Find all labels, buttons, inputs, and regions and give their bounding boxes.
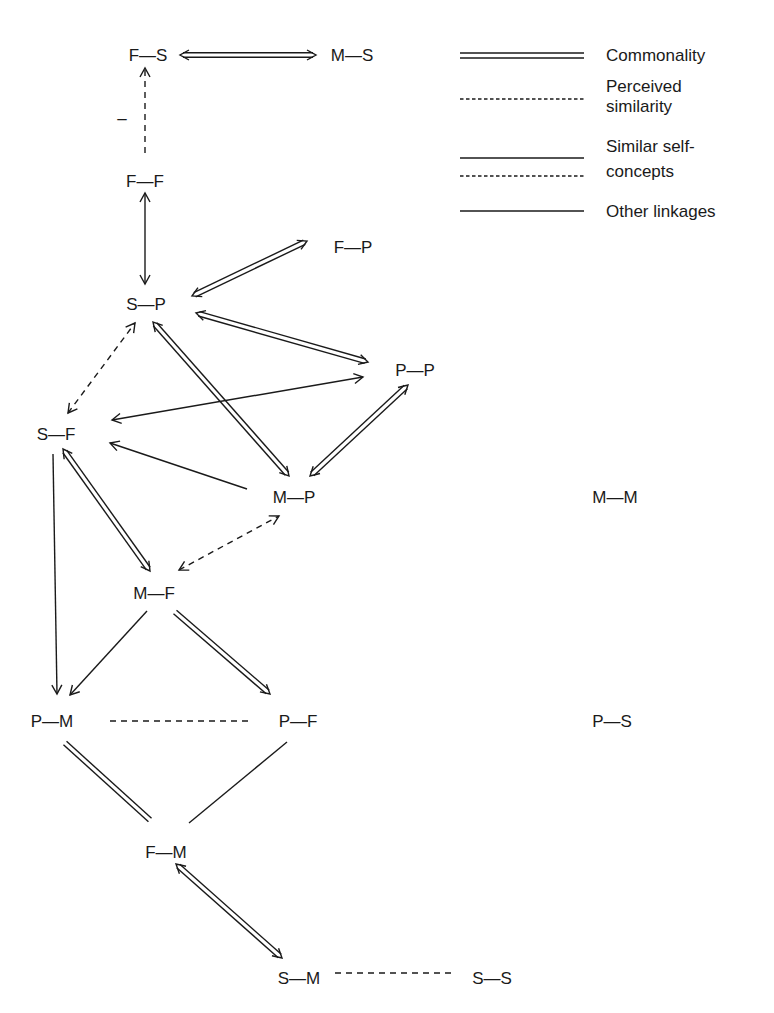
node-SF: S—F <box>37 425 76 444</box>
edge-MF-MP <box>179 516 279 570</box>
legend-item-commonality: Commonality <box>460 46 706 65</box>
edge-SF-PP <box>112 374 363 424</box>
node-SM: S—M <box>278 969 321 988</box>
legend-item-similar-self-concepts: Similar self- concepts <box>460 137 695 181</box>
edge-FS-MS <box>180 50 316 60</box>
legend-item-other-linkages: Other linkages <box>460 202 716 221</box>
node-MM: M—M <box>592 488 637 507</box>
edge-FF-SP <box>140 193 150 284</box>
node-MF: M—F <box>133 584 175 603</box>
legend-label-commonality: Commonality <box>606 46 706 65</box>
legend: Commonality Perceived similarity Similar… <box>460 46 716 221</box>
edge-MP-SF <box>110 441 247 489</box>
arrowhead-icon <box>179 561 189 570</box>
arrowhead-icon <box>307 50 316 60</box>
node-SS: S—S <box>472 969 512 988</box>
edge-SP-MP <box>153 322 289 476</box>
edge-MF-PM <box>70 611 147 695</box>
legend-label-other-linkages: Other linkages <box>606 202 716 221</box>
node-MS: M—S <box>331 46 374 65</box>
minus-sign-annotation: – <box>117 109 127 128</box>
node-PP: P—P <box>395 361 435 380</box>
node-FM: F—M <box>145 843 187 862</box>
node-MP: M—P <box>273 488 316 507</box>
node-SP: S—P <box>126 295 166 314</box>
node-PM: P—M <box>31 712 74 731</box>
node-FS: F—S <box>129 46 168 65</box>
edge-MF-PF <box>173 610 270 694</box>
node-FP: F—P <box>334 238 373 257</box>
arrowhead-icon <box>196 311 206 321</box>
legend-label-similar-self: Similar self- <box>606 137 695 156</box>
node-FF: F—F <box>126 172 164 191</box>
edge-MP-PP <box>310 385 408 476</box>
edges-layer <box>52 50 452 973</box>
edge-SF-SP <box>68 323 135 413</box>
legend-label-perceived: Perceived <box>606 77 682 96</box>
edge-FF-FS <box>140 68 150 153</box>
annotations-layer: – <box>117 109 127 128</box>
nodes-layer: F—SM—SF—FF—PS—PP—PS—FM—PM—MM—FP—MP—FP—SF… <box>31 46 638 988</box>
edge-SP-FP <box>192 240 307 297</box>
role-linkage-diagram: F—SM—SF—FF—PS—PP—PS—FM—PM—MM—FP—MP—FP—SF… <box>0 0 774 1013</box>
edge-SF-MF <box>63 449 150 571</box>
edge-SF-PM <box>52 454 62 694</box>
edge-FM-SM <box>176 864 282 958</box>
edge-PF-FM <box>189 742 287 823</box>
arrowhead-icon <box>180 50 189 60</box>
legend-item-perceived-similarity: Perceived similarity <box>460 77 682 116</box>
edge-SP-PP <box>196 311 368 365</box>
node-PS: P—S <box>592 712 632 731</box>
legend-label-similarity: similarity <box>606 97 673 116</box>
node-PF: P—F <box>279 712 318 731</box>
arrowhead-icon <box>358 355 368 365</box>
edge-PM-FM <box>63 741 151 821</box>
legend-label-concepts: concepts <box>606 162 674 181</box>
